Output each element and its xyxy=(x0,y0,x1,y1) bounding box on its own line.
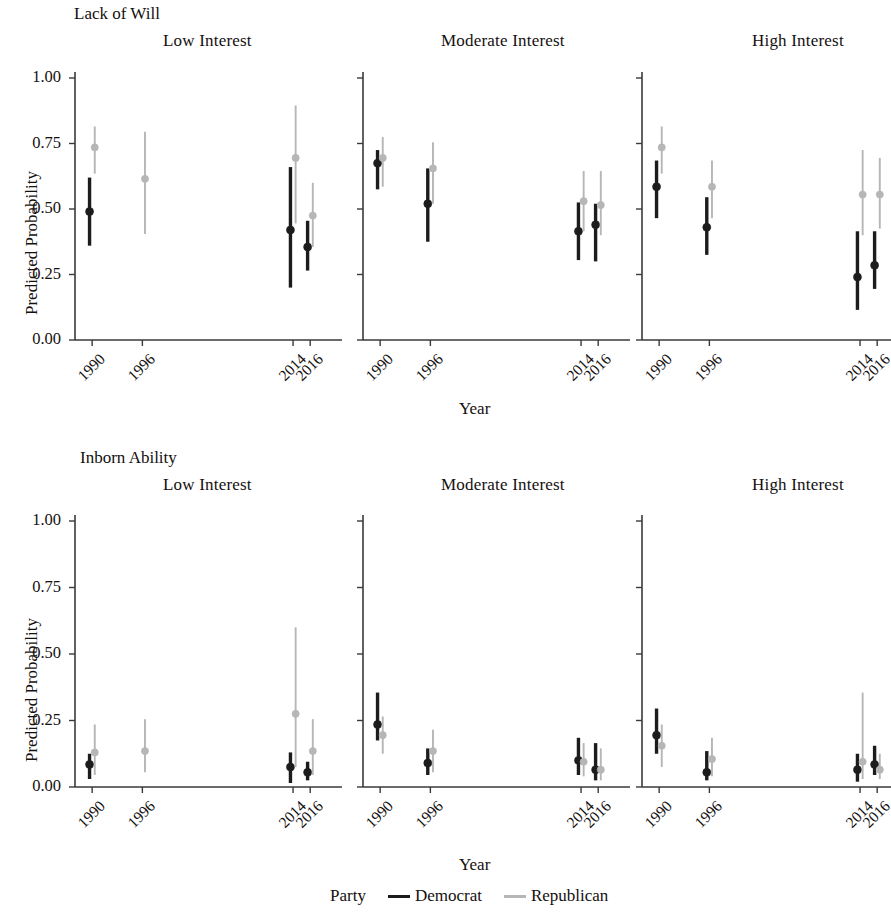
data-point-republican xyxy=(876,191,883,198)
data-point-democrat xyxy=(424,759,432,767)
panel-series-group xyxy=(374,137,605,261)
data-point-democrat xyxy=(86,208,94,216)
data-point-democrat xyxy=(86,760,94,768)
data-point-republican xyxy=(91,749,98,756)
data-point-republican xyxy=(91,144,98,151)
y-tick-label: 0.50 xyxy=(0,643,61,663)
y-tick-label: 0.00 xyxy=(0,329,61,349)
chart-figure: Lack of Will Inborn Ability Low Interest… xyxy=(0,0,891,917)
y-tick-label: 0.00 xyxy=(0,776,61,796)
data-point-republican xyxy=(309,747,316,754)
data-point-republican xyxy=(379,154,386,161)
y-tick-label: 0.75 xyxy=(0,133,61,153)
data-point-democrat xyxy=(574,227,582,235)
data-point-democrat xyxy=(853,766,861,774)
data-point-democrat xyxy=(853,273,861,281)
data-point-republican xyxy=(859,758,866,765)
data-point-republican xyxy=(580,758,587,765)
data-point-democrat xyxy=(304,243,312,251)
data-point-republican xyxy=(292,154,299,161)
data-point-democrat xyxy=(286,226,294,234)
panel-series-group xyxy=(86,106,317,288)
data-point-republican xyxy=(141,747,148,754)
y-tick-label: 1.00 xyxy=(0,67,61,87)
y-tick-label: 0.25 xyxy=(0,710,61,730)
y-tick-label: 0.75 xyxy=(0,577,61,597)
data-point-republican xyxy=(597,201,604,208)
data-point-republican xyxy=(309,212,316,219)
data-point-republican xyxy=(658,742,665,749)
panel-series-group xyxy=(653,693,884,782)
data-point-democrat xyxy=(286,763,294,771)
data-point-democrat xyxy=(304,768,312,776)
panel-series-group xyxy=(86,627,317,783)
data-point-democrat xyxy=(592,221,600,229)
data-point-republican xyxy=(597,766,604,773)
data-point-republican xyxy=(708,183,715,190)
data-point-democrat xyxy=(653,183,661,191)
y-tick-label: 0.25 xyxy=(0,264,61,284)
data-point-republican xyxy=(876,766,883,773)
data-point-democrat xyxy=(374,720,382,728)
data-point-republican xyxy=(141,175,148,182)
data-point-republican xyxy=(859,191,866,198)
data-point-republican xyxy=(708,755,715,762)
data-point-republican xyxy=(292,710,299,717)
data-point-republican xyxy=(658,144,665,151)
data-point-republican xyxy=(429,165,436,172)
panel-series-group xyxy=(653,126,884,309)
data-point-democrat xyxy=(703,223,711,231)
data-point-democrat xyxy=(424,200,432,208)
data-point-republican xyxy=(379,732,386,739)
data-point-republican xyxy=(580,198,587,205)
panel-series-group xyxy=(374,693,605,781)
plot-canvas xyxy=(0,0,891,917)
data-point-democrat xyxy=(703,768,711,776)
data-point-democrat xyxy=(871,261,879,269)
data-point-republican xyxy=(429,747,436,754)
y-tick-label: 1.00 xyxy=(0,510,61,530)
data-point-democrat xyxy=(653,731,661,739)
y-tick-label: 0.50 xyxy=(0,198,61,218)
